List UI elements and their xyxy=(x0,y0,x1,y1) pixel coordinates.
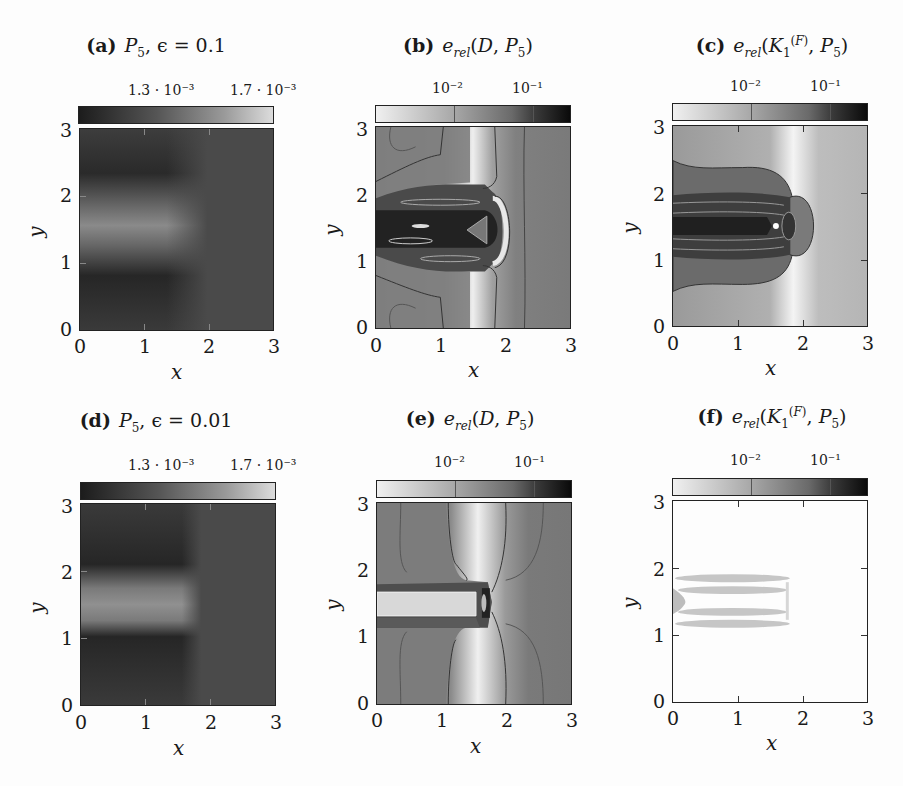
tick-mark xyxy=(738,696,739,702)
heatmap-image xyxy=(80,129,273,330)
colorbar xyxy=(672,103,868,121)
panel-title: (c)erel(K1(F), P5) xyxy=(622,34,903,60)
x-tick-label: 0 xyxy=(74,337,86,356)
x-tick-label: 0 xyxy=(667,709,679,728)
tick-mark xyxy=(861,635,867,636)
colorbar-tick-label: 1.3 · 10⁻³ xyxy=(128,82,194,98)
x-tick-label: 2 xyxy=(203,337,215,356)
x-tick-label: 2 xyxy=(500,336,512,355)
x-axis-label: x xyxy=(470,734,481,758)
panel-b: (b)erel(D, P5) 10⁻² 10⁻¹ xyxy=(300,0,600,390)
colorbar xyxy=(672,478,868,496)
colorbar-separator xyxy=(830,479,831,495)
tick-mark xyxy=(738,126,739,132)
tick-mark xyxy=(738,501,739,507)
x-axis-label: x xyxy=(468,358,479,382)
tick-mark xyxy=(144,129,145,135)
y-axis-label: y xyxy=(320,224,344,235)
heatmap-plot xyxy=(80,503,276,706)
x-tick-label: 1 xyxy=(139,337,151,356)
heatmap-image xyxy=(673,501,867,702)
tick-mark xyxy=(81,571,87,572)
colorbar-separator xyxy=(455,481,456,497)
tick-mark xyxy=(738,320,739,326)
tick-mark xyxy=(861,193,867,194)
y-tick-label: 3 xyxy=(60,121,72,140)
y-tick-label: 2 xyxy=(60,186,72,205)
colorbar-tick-label: 10⁻² xyxy=(432,80,463,96)
colorbar-tick-label: 10⁻² xyxy=(730,78,761,94)
x-tick-label: 3 xyxy=(268,337,280,356)
y-tick-label: 1 xyxy=(60,253,72,272)
y-tick-label: 0 xyxy=(356,318,368,337)
heatmap-plot xyxy=(376,502,572,705)
tick-mark xyxy=(210,699,211,705)
colorbar-separator xyxy=(454,106,455,122)
y-axis-label: y xyxy=(618,597,642,608)
x-tick-label: 2 xyxy=(797,709,809,728)
heatmap-image xyxy=(377,503,571,704)
y-tick-label: 2 xyxy=(653,560,665,579)
y-tick-label: 1 xyxy=(356,252,368,271)
colorbar-tick-label: 10⁻¹ xyxy=(514,454,545,470)
x-tick-label: 1 xyxy=(140,713,152,732)
y-tick-label: 3 xyxy=(61,497,73,516)
x-tick-label: 1 xyxy=(436,711,448,730)
heatmap-image xyxy=(376,127,570,328)
colorbar-tick-label: 10⁻¹ xyxy=(810,452,841,468)
tick-mark xyxy=(861,568,867,569)
x-axis-label: x xyxy=(171,360,182,384)
x-tick-label: 3 xyxy=(566,711,578,730)
panel-title: (e)erel(D, P5) xyxy=(320,407,620,433)
heatmap-plot xyxy=(79,128,274,331)
y-tick-label: 0 xyxy=(653,692,665,711)
x-tick-label: 0 xyxy=(75,713,87,732)
colorbar-separator xyxy=(751,479,752,495)
x-tick-label: 1 xyxy=(435,336,447,355)
x-tick-label: 1 xyxy=(732,334,744,353)
y-tick-label: 0 xyxy=(61,696,73,715)
y-tick-label: 1 xyxy=(61,629,73,648)
x-tick-label: 3 xyxy=(862,709,874,728)
x-tick-label: 3 xyxy=(565,336,577,355)
colorbar-separator xyxy=(830,104,831,120)
panel-d: (d)P5, ϵ = 0.01 1.3 · 10⁻³ 1.7 · 10⁻³ xyxy=(0,393,300,783)
x-axis-label: x xyxy=(765,356,776,380)
y-tick-label: 2 xyxy=(357,561,369,580)
tick-mark xyxy=(803,320,804,326)
tick-mark xyxy=(673,635,679,636)
y-axis-label: y xyxy=(321,599,345,610)
tick-mark xyxy=(210,504,211,510)
tick-mark xyxy=(80,196,86,197)
tick-mark xyxy=(145,699,146,705)
x-axis-label: x xyxy=(173,736,184,760)
x-axis-label: x xyxy=(766,731,777,755)
colorbar xyxy=(78,106,274,124)
colorbar-tick-label: 10⁻¹ xyxy=(810,78,841,94)
colorbar-tick-label: 1.7 · 10⁻³ xyxy=(230,457,296,473)
tick-mark xyxy=(80,263,86,264)
x-tick-label: 2 xyxy=(797,334,809,353)
colorbar-tick-label: 10⁻¹ xyxy=(512,80,543,96)
x-tick-label: 0 xyxy=(371,711,383,730)
colorbar xyxy=(80,482,276,500)
tick-mark xyxy=(144,324,145,330)
colorbar-tick-label: 1.7 · 10⁻³ xyxy=(230,82,296,98)
y-tick-label: 3 xyxy=(653,118,665,137)
x-tick-label: 0 xyxy=(667,334,679,353)
colorbar-separator xyxy=(533,106,534,122)
y-axis-label: y xyxy=(618,222,642,233)
y-tick-label: 1 xyxy=(653,626,665,645)
y-tick-label: 3 xyxy=(357,495,369,514)
x-tick-label: 0 xyxy=(370,336,382,355)
tick-mark xyxy=(803,696,804,702)
y-tick-label: 0 xyxy=(653,317,665,336)
panel-e: (e)erel(D, P5) 10⁻² 10⁻¹ xyxy=(300,393,600,783)
tick-mark xyxy=(81,638,87,639)
heatmap-plot xyxy=(672,125,868,327)
panel-f: (f)erel(K1(F), P5) 10⁻² 10⁻¹ 3 2 1 0 0 1… xyxy=(600,393,900,783)
y-tick-label: 3 xyxy=(356,120,368,139)
colorbar xyxy=(376,480,572,498)
panel-title: (b)erel(D, P5) xyxy=(318,34,618,60)
tick-mark xyxy=(861,260,867,261)
